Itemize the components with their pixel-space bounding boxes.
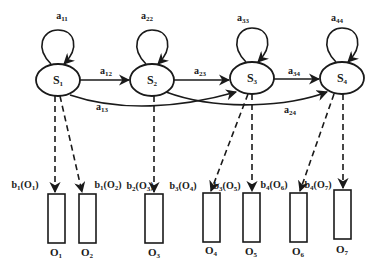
observation-box-o4 [203,193,220,242]
state-label-s3-text: S [247,71,254,85]
emission-label-o2: b1(O2) [94,180,121,192]
state-label-s1-text: S [53,73,60,87]
emission-label-o3: b2(O3) [126,181,153,193]
emission-label-o5: b3(O5) [213,181,240,193]
observation-label-o1-text: O [50,246,59,258]
emission-label-o6: b4(O6) [260,180,287,192]
self-transition-label-a44: a44 [331,13,343,25]
state-label-s2-text: S [147,73,154,87]
paren-close: ) [284,179,287,190]
state-label-s2: S2 [147,74,157,88]
self-loop-s4 [327,28,358,62]
self-transition-label-a22-subscript: 22 [146,15,153,23]
observation-label-o2: O2 [81,247,93,260]
self-transition-label-a33: a33 [237,13,249,25]
observation-box-o7 [334,190,351,239]
state-label-s1: S1 [53,74,63,88]
observation-label-o1-subscript: 1 [59,252,63,260]
observation-label-o4-subscript: 4 [214,250,218,258]
observation-label-o6-text: O [292,245,301,257]
self-transition-label-a11: a11 [56,11,68,23]
transition-label-a24: a24 [284,105,296,117]
observation-label-o4: O4 [205,245,217,258]
observation-label-o5: O5 [245,246,257,259]
observation-label-o3-text: O [148,246,157,258]
observation-label-o1: O1 [50,247,62,260]
emission-s4-o6 [300,94,334,191]
observation-box-o3 [145,194,163,243]
transition-label-a24-subscript: 24 [289,109,296,117]
observation-label-o3: O3 [148,247,160,260]
state-label-s3-subscript: 3 [254,78,258,86]
observation-label-o6-subscript: 6 [301,251,305,259]
paren-close: ) [118,179,121,190]
transitions [70,79,327,106]
transition-label-a34: a34 [288,66,300,78]
state-label-s4: S4 [337,72,347,86]
paren-close: ) [150,180,153,191]
observation-label-o7-subscript: 7 [345,249,349,257]
paren-close: ) [237,180,240,191]
transition-label-a12-subscript: 12 [105,70,112,78]
observation-label-o7: O7 [336,244,348,257]
emission-s1-o2 [60,96,82,192]
transition-label-a12: a12 [100,66,112,78]
observation-label-o4-text: O [205,244,214,256]
observation-box-o6 [290,193,307,242]
observation-label-o2-subscript: 2 [90,252,94,260]
self-loop-s2 [137,30,168,64]
transition-label-a23: a23 [194,66,206,78]
observation-box-o2 [79,194,96,243]
observation-label-o6: O6 [292,246,304,259]
emission-label-o4: b3(O4) [169,181,196,193]
observation-label-o5-text: O [245,245,254,257]
emission-s3-o4 [211,94,248,191]
state-label-s2-subscript: 2 [154,80,158,88]
observation-label-o5-subscript: 5 [254,251,258,259]
transition-label-a13: a13 [96,102,108,114]
paren-close: ) [328,179,331,190]
transition-label-a23-subscript: 23 [199,70,206,78]
observation-box-o5 [243,193,260,242]
self-loops [42,28,358,64]
self-loop-s3 [237,28,268,62]
self-transition-label-a33-subscript: 33 [242,17,249,25]
observation-box-o1 [48,194,65,243]
state-label-s4-subscript: 4 [344,78,348,86]
self-transition-label-a11-subscript: 11 [61,15,68,23]
self-transition-label-a44-subscript: 44 [336,17,343,25]
emission-label-o1: b1(O1) [11,180,38,192]
observations [48,190,351,243]
transition-label-a13-subscript: 13 [101,106,108,114]
paren-close: ) [193,180,196,191]
observation-label-o7-text: O [336,243,345,255]
transition-label-a34-subscript: 34 [293,70,300,78]
hmm-diagram [0,0,381,271]
observation-label-o3-subscript: 3 [157,252,161,260]
observation-label-o2-text: O [81,246,90,258]
state-label-s3: S3 [247,72,257,86]
state-label-s1-subscript: 1 [60,80,64,88]
self-transition-label-a22: a22 [141,11,153,23]
self-loop-s1 [42,30,74,64]
emission-label-o7: b4(O7) [304,180,331,192]
paren-close: ) [35,179,38,190]
state-label-s4-text: S [337,71,344,85]
